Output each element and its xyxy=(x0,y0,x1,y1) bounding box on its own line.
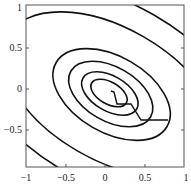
x-tick-label: −0.5 xyxy=(57,172,75,183)
x-tick-label: 0.5 xyxy=(139,172,152,183)
y-tick-label: 0 xyxy=(17,83,22,94)
contour-level-5 xyxy=(0,0,191,187)
y-tick-label: −0.5 xyxy=(4,124,22,135)
contour-level-2 xyxy=(74,63,145,124)
y-tick-label: 0.5 xyxy=(10,42,23,53)
contour-level-3 xyxy=(57,48,164,141)
contour-level-1 xyxy=(86,73,132,112)
elliptic-contours xyxy=(0,0,191,187)
y-tick-label: 1 xyxy=(17,2,22,13)
x-tick-label: −1 xyxy=(21,172,32,183)
contour-level-6 xyxy=(0,0,191,187)
plot-frame xyxy=(26,5,184,167)
x-tick-label: 0 xyxy=(103,172,108,183)
plot-area xyxy=(0,0,191,187)
x-tick-label: 1 xyxy=(184,172,189,183)
contour-plot: −1 −0.5 0 0.5 1 1 0.5 0 −0.5 xyxy=(0,0,191,187)
